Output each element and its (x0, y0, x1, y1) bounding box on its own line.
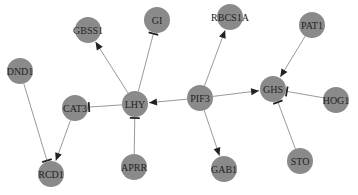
node-rcd1[interactable]: RCD1 (38, 161, 64, 187)
edge-aprr-to-lhy (130, 118, 140, 154)
node-label: CAT3 (63, 103, 87, 114)
node-label: LHY (125, 99, 146, 110)
edge-line (138, 34, 153, 92)
node-label: GHS (263, 84, 283, 95)
node-gi[interactable]: GI (144, 7, 170, 33)
edge-pif3-to-ghs (213, 88, 259, 96)
node-label: RCD1 (38, 169, 64, 180)
edge-pat1-to-ghs (280, 36, 305, 77)
arrowhead-icon (251, 88, 259, 95)
node-label: GAB1 (211, 164, 237, 175)
node-rbcs1a[interactable]: RBCS1A (211, 4, 250, 30)
edge-pif3-to-gab1 (204, 110, 220, 155)
inhibition-bar-icon (89, 102, 90, 112)
edge-lhy-to-gbss1 (96, 42, 129, 93)
node-label: GI (152, 15, 163, 26)
node-dnd1[interactable]: DND1 (7, 58, 34, 84)
arrowhead-icon (219, 30, 226, 39)
edge-line (287, 91, 323, 97)
network-graph: GBSS1GIRBCS1APAT1DND1CAT3LHYPIF3GHSHOG1R… (0, 0, 358, 195)
arrowhead-icon (55, 152, 62, 161)
node-label: DND1 (7, 66, 34, 77)
node-ghs[interactable]: GHS (260, 76, 286, 102)
arrowhead-icon (149, 98, 157, 105)
edge-lhy-to-cat3 (89, 102, 122, 112)
edge-line (205, 30, 226, 86)
arrowhead-icon (96, 42, 103, 51)
node-label: HOG1 (323, 95, 350, 106)
edge-cat3-to-rcd1 (55, 120, 70, 161)
node-pat1[interactable]: PAT1 (299, 12, 325, 38)
node-pif3[interactable]: PIF3 (187, 85, 213, 111)
edge-pif3-to-lhy (149, 98, 187, 105)
node-label: PIF3 (190, 93, 209, 104)
edge-dnd1-to-rcd1 (24, 83, 52, 162)
edge-line (24, 83, 47, 160)
edge-line (134, 118, 135, 154)
node-gab1[interactable]: GAB1 (211, 156, 237, 182)
edge-lhy-to-gi (138, 32, 158, 91)
node-label: STO (291, 156, 310, 167)
node-label: PAT1 (301, 20, 323, 31)
node-sto[interactable]: STO (287, 148, 313, 174)
node-gbss1[interactable]: GBSS1 (73, 17, 103, 43)
edge-line (278, 102, 296, 149)
node-label: GBSS1 (73, 25, 103, 36)
node-label: APRR (121, 162, 147, 173)
edge-pif3-to-rbcs1a (205, 30, 226, 86)
node-hog1[interactable]: HOG1 (323, 87, 350, 113)
node-lhy[interactable]: LHY (122, 91, 148, 117)
node-label: RBCS1A (211, 12, 250, 23)
nodes-layer: GBSS1GIRBCS1APAT1DND1CAT3LHYPIF3GHSHOG1R… (7, 4, 350, 187)
node-cat3[interactable]: CAT3 (62, 95, 88, 121)
network-diagram: GBSS1GIRBCS1APAT1DND1CAT3LHYPIF3GHSHOG1R… (0, 0, 358, 195)
arrowhead-icon (214, 147, 221, 156)
edge-line (89, 105, 122, 107)
edge-hog1-to-ghs (286, 86, 323, 97)
arrowhead-icon (280, 68, 287, 77)
edge-sto-to-ghs (273, 100, 295, 148)
inhibition-bar-icon (286, 86, 288, 96)
edge-line (96, 42, 129, 93)
node-aprr[interactable]: APRR (121, 154, 147, 180)
